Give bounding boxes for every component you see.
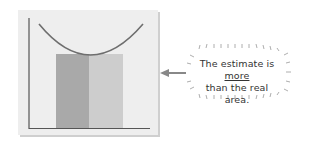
callout-emphasis: more	[224, 70, 249, 81]
dark-rectangle	[56, 54, 89, 128]
callout-line2: than the real area.	[206, 82, 269, 105]
curve	[39, 24, 143, 55]
callout: The estimate is more than the real area.	[178, 38, 286, 100]
callout-text: The estimate is more than the real area.	[192, 58, 282, 106]
callout-line1: The estimate is	[200, 58, 275, 69]
light-rectangle	[89, 54, 123, 128]
